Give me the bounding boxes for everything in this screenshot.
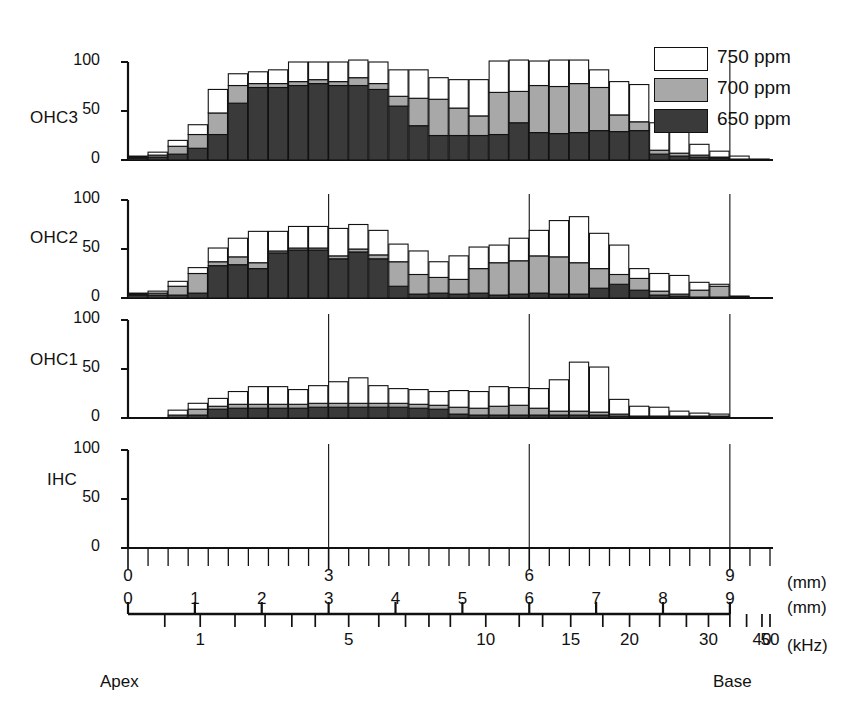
- bar: [630, 406, 649, 418]
- bar-seg-700: [369, 255, 388, 259]
- legend-swatch-700: [654, 78, 708, 102]
- bar-seg-650: [228, 265, 247, 298]
- bar: [188, 125, 207, 160]
- bar-seg-650: [268, 87, 287, 160]
- bar-seg-700: [650, 291, 669, 295]
- bar-seg-750: [469, 80, 488, 116]
- bar-seg-650: [589, 288, 608, 298]
- bar-seg-750: [529, 61, 548, 86]
- bar-seg-750: [569, 60, 588, 84]
- bar: [228, 392, 247, 418]
- bar-seg-750: [188, 403, 207, 409]
- bar-seg-700: [429, 277, 448, 293]
- bar-seg-650: [529, 293, 548, 298]
- bar-seg-650: [248, 87, 267, 160]
- bar: [329, 382, 348, 418]
- bar: [650, 407, 669, 418]
- bar-seg-700: [349, 403, 368, 407]
- bar-seg-750: [730, 156, 749, 159]
- bar-seg-700: [248, 84, 267, 88]
- bar-seg-750: [289, 390, 308, 405]
- bar-seg-650: [449, 136, 468, 161]
- bar: [489, 387, 508, 418]
- bar-seg-700: [529, 86, 548, 133]
- bar: [610, 82, 629, 160]
- bar: [289, 390, 308, 418]
- xtick-mm-coarse: 9: [715, 566, 745, 586]
- bar-seg-650: [369, 407, 388, 418]
- bar-seg-700: [248, 404, 267, 408]
- bar-seg-750: [610, 245, 629, 274]
- bar: [469, 392, 488, 418]
- xtick-mm-fine: 1: [180, 589, 210, 609]
- bar-seg-750: [409, 251, 428, 275]
- bar-seg-750: [369, 230, 388, 255]
- bar-seg-650: [369, 89, 388, 160]
- bar-seg-650: [389, 286, 408, 298]
- bar-seg-750: [268, 231, 287, 251]
- bar-seg-700: [529, 256, 548, 293]
- bar-seg-700: [449, 108, 468, 135]
- bar-seg-750: [549, 221, 568, 257]
- bar-seg-750: [670, 411, 689, 416]
- bar-seg-750: [148, 152, 167, 155]
- bar-seg-700: [589, 269, 608, 289]
- bar-seg-700: [369, 84, 388, 90]
- bar: [248, 231, 267, 298]
- bar-seg-650: [289, 408, 308, 418]
- bar: [389, 70, 408, 160]
- bar-seg-700: [289, 404, 308, 408]
- y-tick-label: 100: [58, 189, 100, 207]
- bar: [670, 129, 689, 160]
- bar: [268, 387, 287, 418]
- bar-seg-700: [469, 408, 488, 415]
- bar-seg-700: [409, 98, 428, 125]
- bar: [610, 399, 629, 418]
- xtick-mm-fine: 0: [113, 589, 143, 609]
- bar-seg-750: [610, 82, 629, 115]
- bar-seg-750: [509, 238, 528, 261]
- bar: [529, 389, 548, 418]
- bar-seg-700: [610, 274, 629, 284]
- bar-seg-750: [630, 406, 649, 416]
- bar-seg-750: [449, 80, 468, 108]
- bar: [168, 281, 187, 298]
- bar-seg-700: [630, 278, 649, 290]
- bar: [349, 225, 368, 299]
- bar: [710, 284, 729, 298]
- bar: [610, 245, 629, 298]
- bar-seg-650: [429, 409, 448, 418]
- bar: [349, 60, 368, 160]
- bar: [469, 80, 488, 160]
- panel-label-ihc: IHC: [47, 470, 77, 490]
- bar-seg-750: [228, 74, 247, 86]
- bar: [128, 293, 147, 298]
- bar-seg-700: [690, 290, 709, 297]
- bar-seg-750: [168, 281, 187, 286]
- xtick-khz: 10: [471, 630, 501, 650]
- bar: [489, 61, 508, 160]
- bar-seg-700: [228, 404, 247, 408]
- xtick-mm-coarse: 6: [514, 566, 544, 586]
- bar: [569, 60, 588, 160]
- y-tick-label: 0: [58, 407, 100, 425]
- bar-seg-700: [188, 274, 207, 294]
- bar-seg-700: [389, 403, 408, 407]
- bar-seg-700: [268, 84, 287, 88]
- bar-seg-750: [329, 382, 348, 404]
- bar-seg-700: [509, 261, 528, 294]
- bar-seg-700: [589, 87, 608, 130]
- bar-seg-650: [329, 86, 348, 160]
- bar-seg-750: [248, 231, 267, 262]
- bar-seg-750: [168, 410, 187, 415]
- bar: [449, 256, 468, 298]
- bar-seg-650: [630, 131, 649, 160]
- bar-seg-750: [569, 362, 588, 411]
- bar-seg-650: [349, 252, 368, 298]
- bar: [409, 251, 428, 298]
- bar-seg-750: [349, 225, 368, 250]
- cochleogram-figure: OHC3 OHC2 OHC1 IHC 050100050100050100050…: [0, 0, 861, 714]
- xtick-khz: 1: [185, 630, 215, 650]
- bar: [208, 398, 227, 418]
- bar-seg-700: [569, 411, 588, 415]
